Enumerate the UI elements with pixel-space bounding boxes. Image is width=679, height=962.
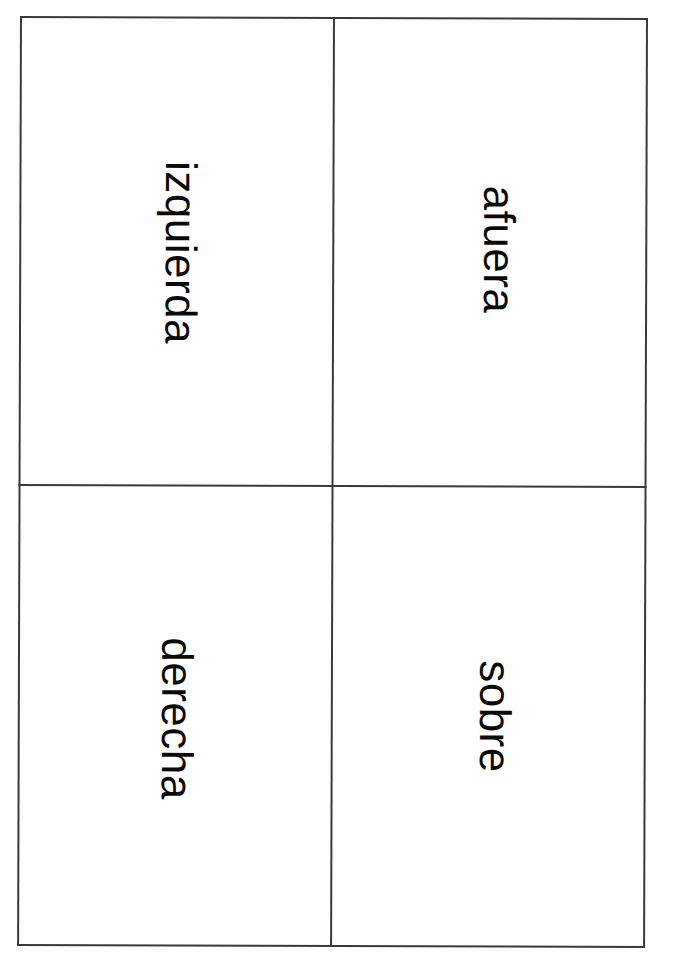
page-canvas: izquierda afuera derecha sobre <box>0 0 679 962</box>
flashcard-cell-bottom-right[interactable]: sobre <box>332 487 644 946</box>
flashcard-word-afuera: afuera <box>477 186 521 314</box>
flashcard-word-izquierda: izquierda <box>158 161 203 344</box>
flashcard-word-sobre: sobre <box>473 660 517 773</box>
flashcard-cell-bottom-left[interactable]: derecha <box>19 486 331 945</box>
flashcard-table: izquierda afuera derecha sobre <box>17 16 648 948</box>
flashcard-cell-top-right[interactable]: afuera <box>334 19 646 486</box>
flashcard-word-derecha: derecha <box>155 637 200 800</box>
flashcard-cell-top-left[interactable]: izquierda <box>21 18 333 485</box>
